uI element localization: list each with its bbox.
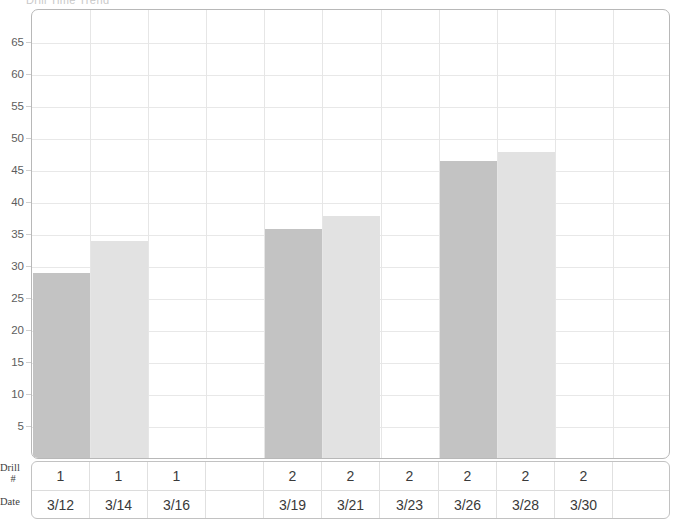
y-axis-tick-label: 35 (11, 228, 24, 240)
gridline-vertical (555, 10, 556, 458)
y-axis-tick-label: 40 (11, 196, 24, 208)
table-cell-drill: 2 (264, 462, 322, 491)
table-cell-drill: 2 (555, 462, 613, 491)
clipped-title-text: Drill Time Trend (26, 0, 109, 4)
y-axis-tick-label: 55 (11, 100, 24, 112)
table-cell-drill (206, 462, 264, 491)
bar (33, 273, 90, 459)
table-cell-drill: 2 (322, 462, 380, 491)
chart-page: Drill Time Trend 65605550454035302520151… (0, 0, 674, 530)
table-cell-date: 3/30 (555, 491, 613, 519)
y-axis-tick-label: 30 (11, 260, 24, 272)
row-header-date: Date (0, 496, 30, 507)
bar (323, 216, 380, 459)
table-cell-date: 3/23 (381, 491, 439, 519)
plot-inner (32, 10, 669, 458)
row-header-drill-line1: Drill (0, 462, 20, 473)
y-axis-tick-label: 65 (11, 36, 24, 48)
table-cell-date: 3/19 (264, 491, 322, 519)
y-axis-tick-label: 45 (11, 164, 24, 176)
gridline-vertical (381, 10, 382, 458)
category-table: 111222222 3/123/143/163/193/213/233/263/… (31, 461, 670, 519)
table-cell-drill (613, 462, 670, 491)
y-axis-tick-label: 60 (11, 68, 24, 80)
y-axis-tick-label: 5 (18, 420, 24, 432)
table-cell-drill: 2 (381, 462, 439, 491)
gridline-horizontal (32, 171, 669, 172)
y-axis-tick-label: 15 (11, 356, 24, 368)
gridline-vertical (613, 10, 614, 458)
bar (265, 229, 322, 459)
bar (440, 161, 497, 459)
table-cell-drill: 2 (439, 462, 497, 491)
row-header-drill: Drill # (0, 462, 30, 484)
row-header-date-line1: Date (0, 496, 20, 507)
table-cell-date: 3/12 (32, 491, 90, 519)
row-header-drill-line2: # (0, 473, 26, 484)
gridline-horizontal (32, 107, 669, 108)
gridline-vertical (206, 10, 207, 458)
table-cell-date: 3/28 (497, 491, 555, 519)
gridline-horizontal (32, 43, 669, 44)
gridline-vertical (148, 10, 149, 458)
gridline-horizontal (32, 75, 669, 76)
table-cell-drill: 2 (497, 462, 555, 491)
table-cell-date: 3/21 (322, 491, 380, 519)
bar (91, 241, 148, 459)
gridline-horizontal (32, 139, 669, 140)
plot-area (31, 9, 670, 459)
table-cell-date: 3/26 (439, 491, 497, 519)
gridline-horizontal (32, 203, 669, 204)
table-cell-drill: 1 (148, 462, 206, 491)
bar (498, 152, 555, 459)
table-row: 3/123/143/163/193/213/233/263/283/30 (32, 491, 669, 519)
table-cell-drill: 1 (90, 462, 148, 491)
y-axis-tick-label: 10 (11, 388, 24, 400)
y-axis-tick-label: 50 (11, 132, 24, 144)
table-cell-date: 3/16 (148, 491, 206, 519)
table-row: 111222222 (32, 462, 669, 491)
y-axis-tick-label: 20 (11, 324, 24, 336)
table-cell-date: 3/14 (90, 491, 148, 519)
table-cell-date (206, 491, 264, 519)
table-cell-date (613, 491, 670, 519)
y-axis: 6560555045403530252015105 (0, 0, 31, 530)
table-cell-drill: 1 (32, 462, 90, 491)
y-axis-tick-label: 25 (11, 292, 24, 304)
